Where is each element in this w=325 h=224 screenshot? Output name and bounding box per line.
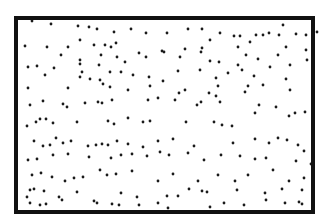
dot bbox=[27, 66, 30, 69]
dot bbox=[285, 46, 288, 49]
dot bbox=[196, 104, 199, 107]
dot bbox=[79, 63, 82, 66]
dot bbox=[253, 75, 256, 78]
dot bbox=[62, 103, 65, 106]
dot bbox=[303, 177, 306, 180]
dot bbox=[138, 52, 141, 55]
dot bbox=[53, 67, 56, 70]
dot bbox=[286, 139, 289, 142]
dot bbox=[127, 143, 130, 146]
dot bbox=[84, 102, 87, 105]
dot bbox=[116, 56, 119, 59]
dot bbox=[208, 92, 211, 95]
dot bbox=[201, 190, 204, 193]
dot bbox=[289, 64, 292, 67]
dot bbox=[136, 196, 139, 199]
dot bbox=[142, 146, 145, 149]
dot bbox=[257, 58, 260, 61]
dot bbox=[77, 25, 80, 28]
dot bbox=[98, 64, 101, 67]
dot bbox=[166, 32, 169, 35]
dot bbox=[254, 112, 257, 115]
dot bbox=[93, 200, 96, 203]
dot bbox=[110, 46, 113, 49]
dot bbox=[120, 154, 123, 157]
dot bbox=[42, 145, 45, 148]
dot bbox=[81, 71, 84, 74]
dot bbox=[157, 202, 160, 205]
dot bbox=[27, 159, 30, 162]
dot bbox=[110, 157, 113, 160]
dot bbox=[243, 204, 246, 207]
dot bbox=[29, 104, 32, 107]
dot bbox=[227, 72, 230, 75]
dot bbox=[89, 78, 92, 81]
dot bbox=[60, 54, 63, 57]
dot bbox=[301, 189, 304, 192]
dot bbox=[149, 120, 152, 123]
dot bbox=[73, 177, 76, 180]
dot bbox=[278, 34, 281, 37]
dot bbox=[55, 137, 58, 140]
dot bbox=[46, 46, 49, 49]
dot bbox=[82, 176, 85, 179]
dot bbox=[131, 170, 134, 173]
dot bbox=[115, 42, 118, 45]
dot bbox=[104, 44, 107, 47]
dot bbox=[209, 60, 212, 63]
dot bbox=[215, 95, 218, 98]
dot bbox=[88, 156, 91, 159]
dot bbox=[64, 180, 67, 183]
dot bbox=[39, 118, 42, 121]
dot bbox=[193, 145, 196, 148]
dot bbox=[42, 100, 45, 103]
dot bbox=[277, 137, 280, 140]
dot bbox=[99, 169, 102, 172]
dot bbox=[39, 204, 42, 207]
dot bbox=[206, 191, 209, 194]
dot bbox=[49, 144, 52, 147]
dot bbox=[93, 44, 96, 47]
dot bbox=[33, 140, 36, 143]
dot bbox=[36, 65, 39, 68]
dot bbox=[268, 32, 271, 35]
dot bbox=[61, 199, 64, 202]
dot bbox=[217, 174, 220, 177]
dot bbox=[298, 201, 301, 204]
dot-field-diagram bbox=[0, 0, 325, 224]
dot bbox=[201, 47, 204, 50]
dot bbox=[27, 87, 30, 90]
dot bbox=[213, 121, 216, 124]
dot bbox=[282, 24, 285, 27]
dot bbox=[145, 32, 148, 35]
dot bbox=[107, 120, 110, 123]
dot bbox=[142, 121, 145, 124]
dot bbox=[305, 34, 308, 37]
dot bbox=[288, 115, 291, 118]
dot bbox=[301, 203, 304, 206]
dot bbox=[36, 158, 39, 161]
dot bbox=[67, 46, 70, 49]
dot bbox=[70, 140, 73, 143]
dot bbox=[241, 69, 244, 72]
dot bbox=[43, 190, 46, 193]
dot bbox=[174, 99, 177, 102]
dot bbox=[99, 79, 102, 82]
dot bbox=[100, 54, 103, 57]
dot bbox=[254, 158, 257, 161]
dot bbox=[184, 48, 187, 51]
dot bbox=[304, 111, 307, 114]
dot bbox=[157, 180, 160, 183]
dot bbox=[163, 51, 166, 54]
dot bbox=[219, 101, 222, 104]
dot bbox=[289, 89, 292, 92]
dot bbox=[305, 49, 308, 52]
dot bbox=[166, 195, 169, 198]
dot bbox=[234, 180, 237, 183]
dot bbox=[188, 188, 191, 191]
dot bbox=[201, 28, 204, 31]
dot bbox=[281, 188, 284, 191]
dot bbox=[179, 56, 182, 59]
dot bbox=[149, 85, 152, 88]
dot bbox=[66, 106, 69, 109]
